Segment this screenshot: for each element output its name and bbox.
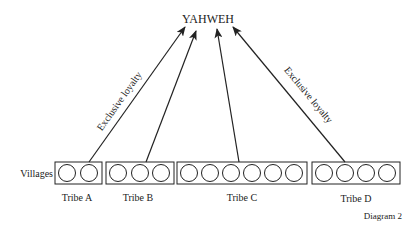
arrow-tribe-c bbox=[217, 29, 239, 162]
arrow-label-left: Exclusive loyalty bbox=[94, 69, 143, 132]
arrow-tribe-a bbox=[89, 27, 185, 162]
tribe-b-box bbox=[106, 162, 174, 184]
yahweh-label: YAHWEH bbox=[182, 12, 234, 26]
tribe-c-box bbox=[177, 162, 307, 184]
tribe-c-label: Tribe C bbox=[227, 192, 258, 203]
arrow-tribe-b bbox=[146, 31, 196, 162]
arrow-tribe-d bbox=[233, 27, 345, 162]
tribe-a-label: Tribe A bbox=[62, 192, 93, 203]
tribe-a-box bbox=[55, 162, 102, 184]
tribe-b-label: Tribe B bbox=[123, 192, 154, 203]
arrow-label-right: Exclusive loyalty bbox=[282, 64, 335, 125]
diagram-canvas: YAHWEH Exclusive loyalty Exclusive loyal… bbox=[0, 0, 416, 226]
tribe-d-box bbox=[312, 162, 400, 184]
diagram-svg: YAHWEH Exclusive loyalty Exclusive loyal… bbox=[0, 0, 416, 226]
diagram-caption: Diagram 2 bbox=[364, 211, 402, 221]
villages-label: Villages bbox=[20, 168, 53, 179]
tribe-d-label: Tribe D bbox=[340, 193, 371, 204]
